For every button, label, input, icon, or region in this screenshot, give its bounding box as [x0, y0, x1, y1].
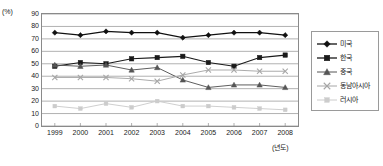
y-axis-tick: 30 [19, 85, 39, 92]
diamond-marker-icon [316, 38, 338, 50]
legend-item-3[interactable]: 중국 [312, 65, 378, 79]
x-axis-unit-label: (년도) [272, 142, 289, 152]
legend-item-2[interactable]: 한국 [312, 51, 378, 65]
y-axis-unit-label: (%) [2, 8, 13, 15]
chart-legend: 미국한국중국동남아시아러시아 [311, 31, 379, 111]
series-4 [52, 67, 288, 83]
y-axis-tick: 80 [19, 22, 39, 29]
y-axis-tick: 60 [19, 47, 39, 54]
y-axis-tick: 70 [19, 35, 39, 42]
y-axis-tick: 40 [19, 72, 39, 79]
legend-item-1[interactable]: 미국 [312, 37, 378, 51]
legend-label: 동남아시아 [340, 82, 370, 90]
plot-area [41, 13, 299, 127]
chart-figure: (%) 9080706050403020100 1999200020012002… [0, 0, 383, 166]
legend-label: 러시아 [340, 96, 358, 104]
series-5 [53, 99, 287, 112]
legend-item-4[interactable]: 동남아시아 [312, 79, 378, 93]
y-axis-tick: 20 [19, 97, 39, 104]
x-axis-tick-labels: 1999200020012002200320042005200620072008 [41, 129, 299, 143]
y-axis-tick: 50 [19, 60, 39, 67]
legend-label: 미국 [340, 40, 352, 48]
small-square-marker-icon [316, 94, 338, 106]
triangle-marker-icon [316, 66, 338, 78]
y-axis-tick: 90 [19, 10, 39, 17]
series-layer [42, 14, 298, 126]
square-marker-icon [316, 52, 338, 64]
legend-label: 한국 [340, 54, 352, 62]
y-axis-tick: 10 [19, 110, 39, 117]
x-axis-tick: 2008 [270, 129, 300, 137]
series-1 [52, 29, 288, 40]
legend-label: 중국 [340, 68, 352, 76]
x-marker-icon [316, 80, 338, 92]
legend-item-5[interactable]: 러시아 [312, 93, 378, 107]
series-3 [52, 62, 288, 89]
y-axis-tick-labels: 9080706050403020100 [14, 0, 39, 166]
y-axis-tick: 0 [19, 122, 39, 129]
